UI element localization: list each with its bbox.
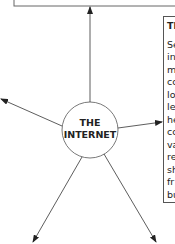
sidebar-text-line: le (167, 101, 175, 114)
sidebar-title: Th (167, 20, 175, 33)
hub-label-line2: INTERNET (62, 129, 118, 141)
sidebar-text-line: sh (167, 164, 175, 177)
sidebar-text-line: fo (167, 201, 175, 203)
sidebar-text-line: va (167, 139, 175, 152)
sidebar-text-line: bu (167, 189, 175, 202)
sidebar-text-line: fr (167, 176, 175, 189)
internet-hub-label: THE INTERNET (62, 117, 118, 141)
arrow-right (118, 122, 162, 128)
sidebar-text-line: m (167, 64, 175, 77)
top-box (14, 0, 175, 6)
sidebar-text-line: he (167, 114, 175, 127)
sidebar-text-line: lo (167, 89, 175, 102)
sidebar-text-line: in (167, 51, 175, 64)
sidebar-text-line: re (167, 151, 175, 164)
arrow-upper-left (1, 99, 62, 126)
sidebar-text-line: co (167, 126, 175, 139)
sidebar-text-line: Se (167, 39, 175, 52)
arrow-lower-right (104, 154, 156, 242)
sidebar-text-box: Th Se in m co lo le he co va re sh fr bu… (163, 16, 175, 203)
arrow-lower-left (33, 157, 82, 242)
hub-label-line1: THE (62, 117, 118, 129)
sidebar-text-line: co (167, 76, 175, 89)
